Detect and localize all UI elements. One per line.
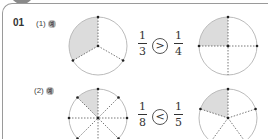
comparison-sign: < — [152, 109, 168, 125]
circle-quarters — [198, 16, 259, 75]
fraction-bar — [138, 114, 147, 115]
denominator: 5 — [174, 117, 183, 128]
circle-thirds — [69, 16, 127, 75]
fraction-left-1: 1 3 — [138, 30, 147, 57]
denominator: 8 — [138, 117, 147, 128]
numerator: 1 — [174, 101, 183, 112]
fraction-right-1: 1 4 — [174, 30, 183, 57]
numerator: 1 — [138, 101, 147, 112]
fraction-bar — [174, 43, 183, 44]
fraction-circles — [0, 0, 268, 139]
denominator: 3 — [138, 46, 147, 57]
comparison-sign: > — [152, 38, 168, 54]
fraction-right-2: 1 5 — [174, 101, 183, 128]
fraction-bar — [138, 43, 147, 44]
numerator: 1 — [138, 30, 147, 41]
fraction-bar — [174, 114, 183, 115]
denominator: 4 — [174, 46, 183, 57]
circle-eighths — [68, 88, 129, 139]
fraction-left-2: 1 8 — [138, 101, 147, 128]
numerator: 1 — [174, 30, 183, 41]
circle-fifths — [199, 88, 257, 139]
